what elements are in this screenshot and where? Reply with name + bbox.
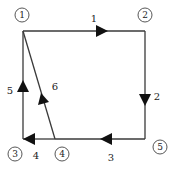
node-4: 4	[55, 147, 69, 161]
node-label: 4	[59, 149, 65, 159]
arrow-down-icon	[139, 94, 151, 106]
node-label: 2	[142, 10, 148, 20]
edge-label-4: 4	[33, 150, 39, 161]
node-label: 3	[12, 149, 18, 159]
node-3: 3	[8, 147, 22, 161]
arrow-up-icon	[17, 80, 29, 92]
edge-label-5: 5	[7, 85, 13, 96]
edge-label-6: 6	[52, 81, 58, 92]
node-5: 5	[153, 140, 167, 154]
arrow-left-icon	[23, 133, 35, 145]
edge-label-1: 1	[91, 13, 97, 24]
edge-6-line	[23, 31, 55, 139]
edge-label-2: 2	[154, 91, 160, 102]
arrow-left-icon	[100, 133, 112, 145]
directed-graph-diagram: 1 2 3 4 5 6 1 2 3 4 5	[0, 0, 173, 170]
edge-label-3: 3	[108, 152, 114, 163]
node-2: 2	[138, 8, 152, 22]
node-1: 1	[15, 8, 29, 22]
arrow-right-icon	[96, 25, 108, 37]
node-label: 1	[19, 10, 25, 20]
arrow-up-diagonal-icon	[38, 93, 49, 105]
node-label: 5	[157, 142, 163, 152]
